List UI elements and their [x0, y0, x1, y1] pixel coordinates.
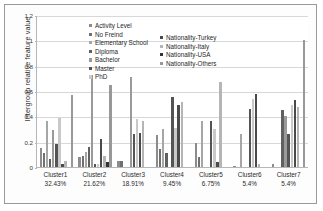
y-tick-label: 0.2: [18, 140, 33, 146]
legend-item[interactable]: Diploma: [89, 48, 148, 55]
bar: [117, 161, 119, 167]
bar: [43, 153, 45, 167]
legend-label: Nationality-Turkey: [166, 34, 217, 41]
bar: [165, 153, 167, 167]
bar: [177, 105, 179, 167]
bar: [52, 130, 54, 167]
legend-item[interactable]: Activity Level: [89, 22, 148, 29]
x-axis-category-label: Cluster75.4%: [269, 171, 308, 188]
bar: [198, 157, 200, 167]
category-percent: 5.4%: [230, 180, 269, 189]
category-percent: 18.91%: [114, 180, 153, 189]
bar-group: [269, 16, 308, 167]
bar: [210, 121, 212, 167]
legend-item[interactable]: Master: [89, 65, 148, 72]
category-name: Cluster3: [121, 171, 145, 178]
bar: [64, 161, 66, 167]
bar: [240, 134, 242, 167]
y-tick-label: 0.6: [18, 89, 33, 95]
bar: [252, 99, 254, 167]
legend-swatch-icon: [89, 24, 92, 27]
x-axis-category-label: Cluster318.91%: [114, 171, 153, 188]
bar: [133, 134, 135, 167]
legend-item[interactable]: PhD: [89, 73, 148, 80]
legend-swatch-icon: [89, 33, 92, 36]
bar: [130, 77, 132, 167]
category-name: Cluster1: [44, 171, 68, 178]
bar: [284, 116, 286, 167]
bar: [97, 164, 99, 167]
bar: [106, 162, 108, 167]
bar: [233, 166, 235, 167]
category-percent: 32.43%: [36, 180, 75, 189]
category-percent: 5.4%: [269, 180, 308, 189]
legend-column-secondary: Nationality-TurkeyNationality-ItalyNatio…: [160, 34, 217, 68]
bar: [281, 110, 283, 167]
bar: [142, 121, 144, 167]
x-axis-category-label: Cluster221.62%: [75, 171, 114, 188]
bar: [103, 156, 105, 167]
y-tick-label: 0.4: [18, 114, 33, 120]
category-percent: 9.45%: [153, 180, 192, 189]
bar: [88, 147, 90, 167]
legend-item[interactable]: Nationality-Others: [160, 60, 217, 67]
bar: [139, 133, 141, 167]
legend-item[interactable]: Nationality-Turkey: [160, 34, 217, 41]
bar: [174, 128, 176, 167]
legend-label: Nationality-USA: [166, 51, 210, 58]
bar: [61, 164, 63, 167]
legend-swatch-icon: [89, 50, 92, 53]
legend-swatch-icon: [160, 53, 163, 56]
bar: [255, 94, 257, 167]
legend-label: Bachelor: [95, 56, 120, 63]
legend-label: No Freind: [95, 31, 123, 38]
category-name: Cluster2: [82, 171, 106, 178]
legend-item[interactable]: Nationality-Italy: [160, 43, 217, 50]
legend-swatch-icon: [89, 67, 92, 70]
bar: [213, 129, 215, 167]
bar: [219, 82, 221, 167]
x-axis-labels: Cluster132.43%Cluster221.62%Cluster318.9…: [36, 171, 308, 188]
x-axis-category-label: Cluster49.45%: [153, 171, 192, 188]
x-axis-category-label: Cluster56.75%: [191, 171, 230, 188]
x-axis-category-label: Cluster65.4%: [230, 171, 269, 188]
bar: [294, 100, 296, 167]
legend-label: Nationality-Others: [166, 60, 216, 67]
bar: [71, 95, 73, 167]
bar: [120, 161, 122, 167]
legend-swatch-icon: [160, 36, 163, 39]
legend-swatch-icon: [89, 41, 92, 44]
legend-item[interactable]: Elementary School: [89, 39, 148, 46]
legend-label: Nationality-Italy: [166, 43, 209, 50]
y-tick-label: 0.8: [18, 64, 33, 70]
bar-group: [37, 16, 76, 167]
legend-item[interactable]: Bachelor: [89, 56, 148, 63]
category-name: Cluster7: [277, 171, 301, 178]
bar: [201, 121, 203, 167]
y-tick-label: 1: [18, 38, 33, 44]
bar: [291, 105, 293, 167]
bar: [49, 159, 51, 167]
legend-item[interactable]: Nationality-USA: [160, 51, 217, 58]
bar-group: [231, 16, 270, 167]
legend-label: Elementary School: [95, 39, 148, 46]
legend-swatch-icon: [160, 62, 163, 65]
bar: [195, 143, 197, 167]
bar: [258, 164, 260, 167]
bar: [58, 118, 60, 167]
bar: [287, 134, 289, 167]
bar: [216, 162, 218, 167]
category-name: Cluster5: [199, 171, 223, 178]
legend-label: Master: [95, 65, 114, 72]
category-percent: 6.75%: [191, 180, 230, 189]
y-tick-mark: [35, 168, 38, 169]
legend-item[interactable]: No Freind: [89, 31, 148, 38]
legend-label: Diploma: [95, 48, 118, 55]
bar: [181, 102, 183, 167]
legend-swatch-icon: [89, 75, 92, 78]
y-tick-label: 0: [18, 165, 33, 171]
bar: [303, 40, 305, 167]
bar: [40, 148, 42, 167]
x-axis-category-label: Cluster132.43%: [36, 171, 75, 188]
bar: [100, 139, 102, 167]
